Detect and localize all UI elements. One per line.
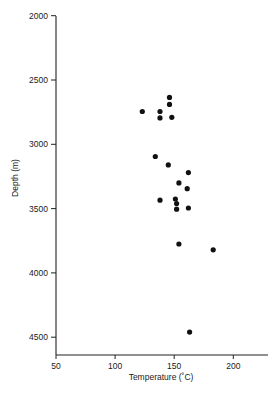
y-axis: 200025003000350040004500 <box>29 11 56 355</box>
data-point <box>185 186 190 191</box>
y-tick-label: 4500 <box>29 332 48 342</box>
data-point <box>211 247 216 252</box>
data-point <box>187 330 192 335</box>
data-point <box>157 115 162 120</box>
data-points <box>140 95 216 335</box>
data-point <box>167 95 172 100</box>
y-tick-label: 2500 <box>29 75 48 85</box>
data-point <box>140 109 145 114</box>
data-point <box>153 154 158 159</box>
data-point <box>173 196 178 201</box>
data-point <box>167 102 172 107</box>
data-point <box>166 162 171 167</box>
x-tick-label: 100 <box>108 361 122 371</box>
y-axis-label: Depth (m) <box>10 159 20 197</box>
x-axis: 50100150200 <box>51 355 268 371</box>
data-point <box>157 109 162 114</box>
y-tick-label: 2000 <box>29 11 48 21</box>
depth-temperature-scatter-chart: 200025003000350040004500 50100150200 Tem… <box>0 0 280 399</box>
data-point <box>174 201 179 206</box>
y-tick-label: 3000 <box>29 139 48 149</box>
x-tick-label: 150 <box>167 361 181 371</box>
data-point <box>176 241 181 246</box>
data-point <box>186 170 191 175</box>
y-tick-label: 4000 <box>29 268 48 278</box>
y-tick-label: 3500 <box>29 204 48 214</box>
x-tick-label: 200 <box>226 361 240 371</box>
x-tick-label: 50 <box>51 361 61 371</box>
data-point <box>186 205 191 210</box>
data-point <box>169 115 174 120</box>
data-point <box>174 207 179 212</box>
x-axis-label: Temperature (˚C) <box>129 372 194 382</box>
data-point <box>157 198 162 203</box>
data-point <box>176 180 181 185</box>
